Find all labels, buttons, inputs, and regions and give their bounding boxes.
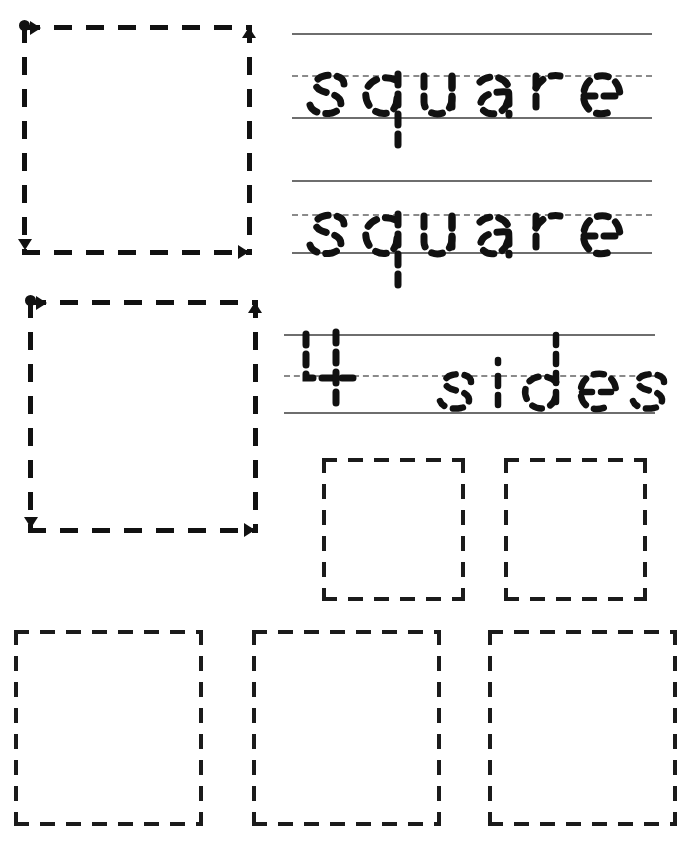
practice-square-3-bottom-edge	[14, 822, 203, 826]
practice-square-4-right-edge	[437, 630, 441, 826]
practice-square-5-bottom-edge	[488, 822, 677, 826]
word-line-1-top-rule	[292, 33, 652, 35]
square-trace-1-arrow-right-bottom	[238, 245, 249, 259]
practice-square-2-left-edge	[504, 458, 508, 601]
square-trace-2-arrow-right-bottom	[244, 523, 255, 537]
practice-square-3-top-edge	[14, 630, 203, 634]
square-trace-2-start-dot	[25, 295, 36, 306]
practice-square-2-bottom-edge	[504, 597, 647, 601]
practice-square-3[interactable]	[14, 630, 203, 826]
square-trace-2-left-edge	[28, 300, 33, 533]
square-trace-2-arrow-up	[248, 302, 262, 313]
practice-square-1-left-edge	[322, 458, 326, 601]
square-trace-1-arrow-right-top	[30, 21, 41, 35]
square-trace-2-arrow-right-top	[36, 296, 47, 310]
practice-square-1-top-edge	[322, 458, 465, 462]
square-trace-1-arrow-up	[242, 27, 256, 38]
square-trace-2-arrow-down	[24, 517, 38, 528]
practice-square-4[interactable]	[252, 630, 441, 826]
practice-square-4-bottom-edge	[252, 822, 441, 826]
square-trace-2[interactable]	[28, 300, 258, 533]
practice-square-1-bottom-edge	[322, 597, 465, 601]
square-trace-1[interactable]	[22, 25, 252, 255]
practice-square-3-right-edge	[199, 630, 203, 826]
practice-square-4-top-edge	[252, 630, 441, 634]
square-trace-2-right-edge	[253, 300, 258, 533]
practice-square-3-left-edge	[14, 630, 18, 826]
practice-square-4-left-edge	[252, 630, 256, 826]
traceable-word-square-1[interactable]	[300, 58, 650, 163]
square-trace-2-top-edge	[28, 300, 258, 305]
square-trace-1-bottom-edge	[22, 250, 252, 255]
practice-square-5-top-edge	[488, 630, 677, 634]
square-trace-1-start-dot	[19, 20, 30, 31]
practice-square-5-left-edge	[488, 630, 492, 826]
traceable-word-four-sides[interactable]	[286, 330, 656, 425]
practice-square-2-top-edge	[504, 458, 647, 462]
practice-square-2[interactable]	[504, 458, 647, 601]
practice-square-5-right-edge	[673, 630, 677, 826]
practice-square-5[interactable]	[488, 630, 677, 826]
practice-square-1[interactable]	[322, 458, 465, 601]
square-trace-1-left-edge	[22, 25, 27, 255]
word-line-2-top-rule	[292, 180, 652, 182]
traceable-word-square-2[interactable]	[300, 198, 650, 303]
practice-square-1-right-edge	[461, 458, 465, 601]
square-trace-1-arrow-down	[18, 239, 32, 250]
worksheet-page	[0, 0, 689, 848]
practice-square-2-right-edge	[643, 458, 647, 601]
square-trace-1-right-edge	[247, 25, 252, 255]
square-trace-2-bottom-edge	[28, 528, 258, 533]
square-trace-1-top-edge	[22, 25, 252, 30]
